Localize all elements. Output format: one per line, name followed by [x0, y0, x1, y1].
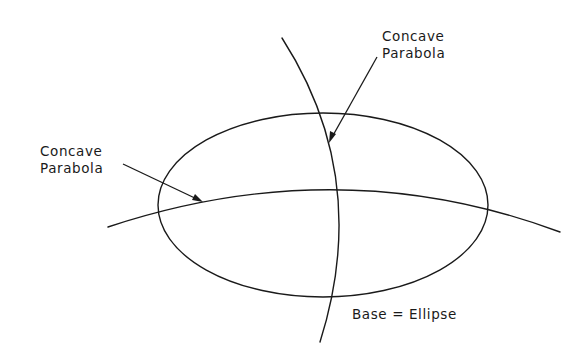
base-ellipse-label: Base = Ellipse: [352, 306, 457, 323]
left-parabola-label-line1: Concave: [40, 143, 103, 160]
arrowhead-icon: [192, 194, 203, 202]
left-leader-arrow: [123, 164, 203, 202]
top-leader-arrow: [329, 57, 377, 143]
base-ellipse-label-text: Base = Ellipse: [352, 306, 457, 323]
top-parabola-label-line2: Parabola: [382, 45, 445, 62]
left-parabola-label: Concave Parabola: [40, 143, 103, 177]
base-ellipse: [158, 113, 488, 297]
top-parabola-label-line1: Concave: [382, 28, 445, 45]
horizontal-parabola: [108, 190, 560, 232]
left-parabola-label-line2: Parabola: [40, 160, 103, 177]
top-parabola-label: Concave Parabola: [382, 28, 445, 62]
diagram-canvas: [0, 0, 588, 361]
